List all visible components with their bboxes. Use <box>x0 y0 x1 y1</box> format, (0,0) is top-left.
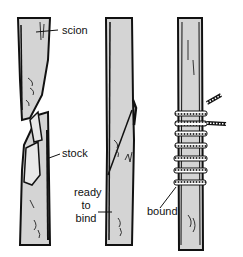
label-to: to <box>74 199 98 211</box>
stock-branch <box>20 112 60 245</box>
label-bound: bound <box>147 205 178 217</box>
label-scion: scion <box>62 24 88 36</box>
grafting-illustration <box>0 0 243 257</box>
joined-branch <box>98 18 136 245</box>
label-bind: bind <box>74 212 98 224</box>
label-ready: ready <box>74 186 98 198</box>
grafting-diagram: scion stock ready to bind bound <box>0 0 243 257</box>
label-stock: stock <box>62 147 88 159</box>
scion-branch <box>18 18 58 120</box>
